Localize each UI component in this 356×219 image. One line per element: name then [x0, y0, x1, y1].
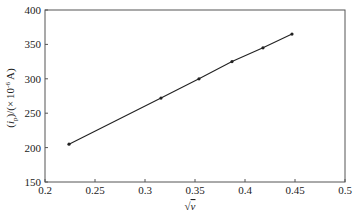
x-tick-label: 0.35	[185, 184, 205, 196]
data-point-marker	[67, 143, 70, 146]
x-tick-label: 0.4	[238, 184, 252, 196]
data-point-marker	[261, 46, 264, 49]
x-tick-label: 0.3	[138, 184, 152, 196]
chart-canvas: 0.20.250.30.350.40.450.5 150200250300350…	[0, 0, 356, 219]
data-point-marker	[290, 32, 293, 35]
y-tick-label: 400	[25, 4, 42, 16]
y-tick-label: 350	[25, 38, 42, 50]
x-tick-label: 0.25	[85, 184, 105, 196]
plot-frame	[45, 10, 345, 182]
x-tick-label: 0.5	[338, 184, 352, 196]
x-tick-label: 0.45	[285, 184, 305, 196]
data-series	[67, 32, 293, 145]
series-line	[69, 34, 292, 144]
data-point-marker	[197, 77, 200, 80]
data-point-marker	[159, 96, 162, 99]
y-axis-label: (ip)/(×10-6 A)	[4, 68, 19, 128]
x-axis-label: √v	[185, 200, 196, 212]
y-axis-ticks: 150200250300350400	[25, 4, 49, 188]
data-point-marker	[230, 60, 233, 63]
y-tick-label: 300	[25, 73, 42, 85]
y-tick-label: 150	[25, 176, 42, 188]
y-tick-label: 200	[25, 142, 42, 154]
y-tick-label: 250	[25, 107, 42, 119]
